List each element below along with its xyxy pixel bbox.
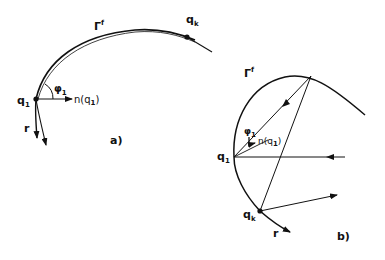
normal-label-a: n(q1) — [74, 94, 99, 107]
qk-label-b: qk — [243, 208, 256, 223]
point-q1-a — [33, 96, 38, 101]
qk-label-a: qk — [186, 13, 199, 28]
curve-label-a: Γf — [94, 19, 105, 33]
normal-label-b: n(q1) — [258, 136, 281, 148]
diagram-figure: Γf qk q1 φ1 n(q1) r a) Γf φ1 n(q1) — [0, 0, 385, 260]
arrow-from-qk — [260, 195, 337, 211]
q1-label-a: q1 — [17, 94, 30, 109]
chord-arrowhead — [282, 99, 290, 107]
curve-label-b: Γf — [244, 66, 255, 80]
panel-b: Γf φ1 n(q1) q1 qk r b) — [217, 66, 365, 243]
point-qk-a — [184, 34, 189, 39]
ray-r-a-second — [36, 99, 46, 145]
point-qk-b — [257, 208, 262, 213]
angle-arc-a — [45, 84, 53, 99]
q1-label-b: q1 — [217, 150, 230, 165]
ray-label-a: r — [24, 122, 30, 135]
diagram-canvas: Γf qk q1 φ1 n(q1) r a) Γf φ1 n(q1) — [0, 0, 385, 260]
caption-b: b) — [337, 230, 350, 243]
caption-a: a) — [110, 134, 122, 147]
phi1-label-b: φ1 — [244, 126, 256, 139]
horizontal-arrowhead — [326, 154, 334, 160]
panel-a: Γf qk q1 φ1 n(q1) r a) — [17, 13, 212, 147]
phi1-label-a: φ1 — [54, 83, 67, 97]
ray-label-b: r — [273, 227, 279, 240]
tangent-tail-qk — [187, 37, 212, 52]
